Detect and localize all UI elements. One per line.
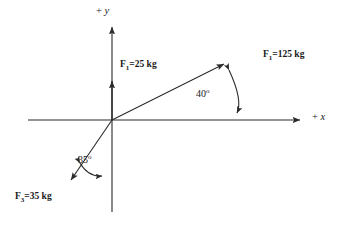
- force-vector-diagram: + y + x F1=25 kg F1=125 kg F3=35 kg 40o …: [0, 0, 348, 226]
- y-axis-label: + y: [96, 6, 109, 17]
- x-axis-label-name: x: [321, 111, 326, 122]
- force-label-25kg-unit: kg: [147, 59, 157, 69]
- y-axis-label-plus: +: [96, 5, 102, 16]
- force-label-125kg-magnitude: 125: [278, 49, 292, 59]
- force-label-35kg-unit: kg: [42, 191, 52, 201]
- force-label-35kg: F3=35 kg: [15, 192, 52, 204]
- angle-label-40-value: 40: [196, 88, 206, 99]
- force-label-25kg-magnitude: 25: [135, 59, 145, 69]
- force-label-35kg-magnitude: 35: [30, 191, 40, 201]
- angle-arc-40: [229, 70, 239, 113]
- angle-arc-40-path: [229, 70, 239, 113]
- angle-label-40: 40o: [196, 88, 210, 99]
- force-label-125kg-unit: kg: [294, 49, 304, 59]
- angle-label-40-degree: o: [206, 87, 210, 95]
- angle-label-35: 35o: [78, 154, 92, 165]
- x-axis-label: + x: [312, 112, 325, 123]
- force-vector-35kg: [71, 120, 112, 180]
- y-axis-label-name: y: [105, 5, 110, 16]
- x-axis-label-plus: +: [312, 111, 318, 122]
- force-label-25kg: F1=25 kg: [120, 60, 157, 72]
- angle-label-35-degree: o: [88, 153, 92, 161]
- force-label-125kg: F1=125 kg: [263, 50, 304, 62]
- angle-label-35-value: 35: [78, 154, 88, 165]
- force-vector-35kg-line: [71, 120, 112, 180]
- diagram-canvas: [0, 0, 348, 226]
